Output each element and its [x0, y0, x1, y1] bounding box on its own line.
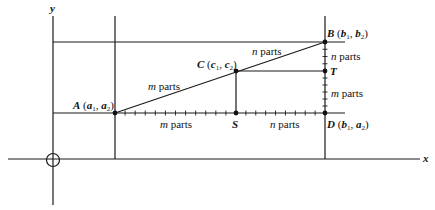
label-point-c: C (c1, c2): [197, 58, 237, 72]
label-point-t: T: [330, 65, 338, 77]
label-point-s: S: [232, 118, 238, 130]
point-s: [234, 111, 239, 116]
label-point-b: B (b1, b2): [326, 27, 368, 41]
label-point-d: D (b1, a2): [326, 118, 369, 132]
y-axis-label: y: [48, 2, 55, 14]
point-a: [113, 111, 118, 116]
label-segment-as: m parts: [160, 118, 192, 130]
label-segment-ac: m parts: [148, 80, 180, 92]
label-segment-sd: n parts: [270, 118, 300, 130]
section-formula-diagram: y x A (a1, a2) B (b1, b2) C (c1, c2) D (…: [0, 0, 435, 210]
x-axis-label: x: [422, 152, 429, 164]
point-t: [323, 69, 328, 74]
point-b: [323, 40, 328, 45]
label-segment-td: m parts: [331, 87, 363, 99]
label-point-a: A (a1, a2): [72, 99, 114, 113]
label-segment-bt: n parts: [331, 50, 361, 62]
label-segment-cb: n parts: [252, 45, 282, 57]
segment-ab: [115, 42, 325, 113]
point-d: [323, 111, 328, 116]
